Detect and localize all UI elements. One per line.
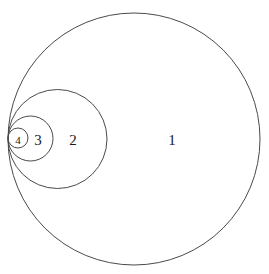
circle-1-label: 1 [168,133,176,148]
circle-3-label: 3 [34,133,42,148]
circle-1-outline [8,13,260,265]
circle-2-label: 2 [69,133,77,148]
figure-canvas: 1 2 3 4 [0,0,269,274]
circle-2-outline [8,90,107,189]
circle-4-label: 4 [15,135,21,146]
